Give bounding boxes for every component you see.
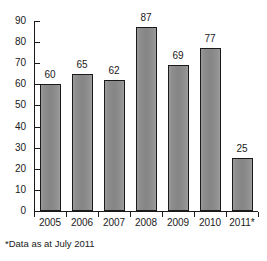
y-axis-tick-label: 80 (15, 37, 26, 47)
chart-footnote: *Data as at July 2011 (5, 238, 95, 250)
y-axis-tick-label: 40 (15, 122, 26, 132)
bar-chart-figure: 0102030405060708090 60656287697725 20052… (0, 0, 267, 261)
x-axis-label-2009: 2009 (160, 217, 196, 229)
y-axis-tick-labels: 0102030405060708090 (0, 21, 30, 211)
x-axis-category-labels: 2005200620072008200920102011* (34, 217, 258, 231)
bar-value-label: 65 (66, 60, 98, 70)
y-axis-tick-label: 30 (15, 143, 26, 153)
bar-2006 (72, 74, 93, 211)
plot-area: 60656287697725 (34, 21, 258, 211)
y-axis-line (34, 21, 35, 211)
bar-2009 (168, 65, 189, 211)
y-axis-tick-label: 10 (15, 185, 26, 195)
x-axis-label-2006: 2006 (64, 217, 100, 229)
x-axis-line (34, 211, 258, 212)
x-axis-label-2005: 2005 (32, 217, 68, 229)
bar-2011 (232, 158, 253, 211)
y-axis-tick (35, 211, 40, 212)
y-axis-tick-label: 20 (15, 164, 26, 174)
bar-value-label: 62 (98, 66, 130, 76)
bar-2010 (200, 48, 221, 211)
bar-value-label: 69 (162, 51, 194, 61)
y-axis-tick (35, 63, 40, 64)
bar-value-label: 25 (226, 144, 258, 154)
y-axis-tick-label: 90 (15, 16, 26, 26)
x-axis-label-2011: 2011* (224, 217, 260, 229)
bar-2008 (136, 27, 157, 211)
bar-2005 (40, 84, 61, 211)
bar-value-label: 87 (130, 13, 162, 23)
y-axis-tick-label: 50 (15, 100, 26, 110)
bar-2007 (104, 80, 125, 211)
y-axis-tick-label: 70 (15, 58, 26, 68)
x-axis-label-2008: 2008 (128, 217, 164, 229)
bar-value-label: 77 (194, 34, 226, 44)
bar-value-label: 60 (34, 70, 66, 80)
x-axis-label-2010: 2010 (192, 217, 228, 229)
y-axis-tick-label: 0 (20, 206, 26, 216)
x-axis-label-2007: 2007 (96, 217, 132, 229)
y-axis-tick (35, 21, 40, 22)
y-axis-tick-label: 60 (15, 79, 26, 89)
y-axis-tick (35, 42, 40, 43)
